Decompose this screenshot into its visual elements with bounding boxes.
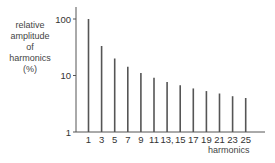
x-tick-label: 23 (227, 134, 238, 145)
x-tick-label: 17 (188, 134, 199, 145)
y-tick-label: 100 (55, 14, 71, 25)
x-tick-label: 7 (125, 134, 130, 145)
y-tick-label: 10 (60, 70, 71, 81)
x-tick-label: 15 (175, 134, 186, 145)
x-axis-title: harmonics (208, 145, 250, 155)
y-tick-label: 1 (66, 127, 71, 138)
harmonics-bar-chart: 100101135791113,151719212325 (0, 0, 275, 163)
x-tick-label: 11 (149, 134, 159, 145)
x-tick-label: 21 (214, 134, 225, 145)
x-tick-label: 3 (99, 134, 104, 145)
x-tick-label: 25 (240, 134, 251, 145)
x-tick-label: 5 (112, 134, 117, 145)
x-tick-label: 9 (138, 134, 143, 145)
x-tick-label: 1 (86, 134, 91, 145)
x-tick-label: 13, (160, 134, 173, 145)
x-tick-label: 19 (201, 134, 212, 145)
